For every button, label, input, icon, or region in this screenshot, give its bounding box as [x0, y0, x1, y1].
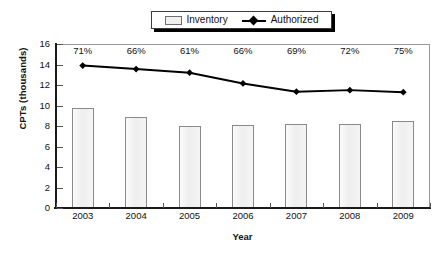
x-tick-mark — [270, 203, 271, 208]
x-tick-mark — [163, 203, 164, 208]
y-tick-label: 10 — [4, 101, 50, 111]
x-tick-mark — [216, 203, 217, 208]
bar — [232, 125, 254, 208]
legend-label-inventory: Inventory — [187, 15, 228, 25]
y-tick-label: 2 — [4, 183, 50, 193]
y-tick-mark — [57, 126, 63, 127]
y-tick-mark — [57, 167, 63, 168]
percent-annotation: 69% — [266, 46, 326, 56]
legend-item-inventory: Inventory — [165, 15, 228, 25]
legend-label-authorized: Authorized — [271, 15, 319, 25]
percent-annotation: 72% — [320, 46, 380, 56]
y-tick-label: 12 — [4, 80, 50, 90]
bar — [72, 108, 94, 208]
x-tick-label: 2004 — [106, 211, 166, 221]
x-tick-label: 2008 — [320, 211, 380, 221]
y-tick-label: 4 — [4, 162, 50, 172]
chart-figure: Inventory Authorized CPTs (thousands) 02… — [0, 0, 442, 253]
chart-legend: Inventory Authorized — [151, 11, 332, 29]
bar — [339, 124, 361, 208]
y-tick-mark — [57, 65, 63, 66]
x-tick-mark — [56, 203, 57, 208]
percent-annotation: 71% — [53, 46, 113, 56]
percent-annotation: 75% — [373, 46, 433, 56]
x-axis-title: Year — [55, 231, 430, 242]
y-tick-mark — [57, 188, 63, 189]
x-tick-label: 2003 — [53, 211, 113, 221]
y-tick-mark — [57, 147, 63, 148]
y-tick-label: 8 — [4, 121, 50, 131]
percent-annotation: 61% — [160, 46, 220, 56]
percent-annotation: 66% — [213, 46, 273, 56]
bar — [179, 126, 201, 208]
legend-item-authorized: Authorized — [242, 15, 319, 25]
x-tick-label: 2005 — [160, 211, 220, 221]
x-tick-mark — [377, 203, 378, 208]
y-tick-mark — [57, 85, 63, 86]
bar — [392, 121, 414, 208]
percent-annotation: 66% — [106, 46, 166, 56]
inventory-swatch-icon — [165, 16, 182, 25]
x-tick-label: 2006 — [213, 211, 273, 221]
x-axis-line — [54, 207, 431, 209]
y-tick-mark — [57, 208, 63, 209]
y-tick-mark — [57, 106, 63, 107]
y-tick-mark — [57, 44, 63, 45]
y-tick-label: 0 — [4, 203, 50, 213]
authorized-line-marker-icon — [242, 16, 266, 25]
y-tick-label: 6 — [4, 142, 50, 152]
bar — [125, 117, 147, 208]
x-tick-mark — [109, 203, 110, 208]
x-tick-label: 2007 — [266, 211, 326, 221]
y-tick-label: 16 — [4, 39, 50, 49]
x-tick-mark — [323, 203, 324, 208]
y-tick-label: 14 — [4, 60, 50, 70]
bar — [285, 124, 307, 208]
x-tick-mark — [430, 203, 431, 208]
x-tick-label: 2009 — [373, 211, 433, 221]
